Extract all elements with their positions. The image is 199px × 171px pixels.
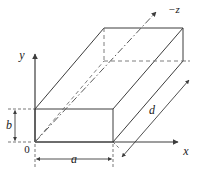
origin-label: 0: [24, 143, 30, 155]
dimension-b-group: [8, 109, 38, 142]
right-face-receding-bottom-edge: [113, 61, 183, 142]
dimension-b-label: b: [6, 118, 12, 132]
dim-d-extension-near: [113, 142, 120, 149]
y-axis-label: y: [18, 48, 25, 62]
box-hidden-edges: [35, 28, 183, 142]
z-axis-label: −z: [168, 3, 180, 15]
z-axis-line: [35, 12, 156, 142]
top-face-left-receding-edge: [35, 28, 104, 109]
top-face-right-receding-edge: [113, 28, 183, 109]
hidden-back-left-receding-edge: [35, 61, 104, 142]
figure-container: y x −z 0 b a d: [0, 0, 199, 171]
dimension-d-label: d: [149, 103, 156, 117]
x-axis-label: x: [182, 144, 189, 158]
box-solid-edges: [35, 28, 183, 142]
dimension-a-label: a: [71, 152, 77, 166]
dim-d-arrow-line: [122, 80, 189, 157]
waveguide-diagram-svg: y x −z 0 b a d: [0, 0, 199, 171]
